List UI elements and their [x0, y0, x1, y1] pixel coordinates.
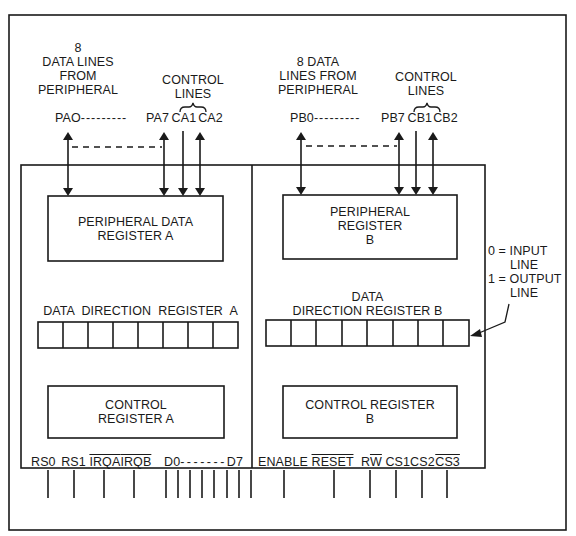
label-line: CONTROL REGISTER — [283, 398, 457, 412]
label-line: CONTROL — [391, 70, 461, 84]
label-line: LINES FROM — [270, 69, 366, 83]
label-line: FROM — [30, 69, 126, 83]
pin-pa7: PA7 — [146, 111, 169, 125]
pr-b-label: PERIPHERAL REGISTER B — [283, 205, 457, 247]
label-line: LINES — [158, 87, 228, 101]
pin-dash: ------- — [180, 455, 227, 469]
port-a-data-lines-label: 8 DATA LINES FROM PERIPHERAL — [30, 41, 126, 97]
label-line: REGISTER A — [48, 229, 223, 243]
legend-line: LINE — [488, 286, 562, 300]
pin-pb0: PB0 — [290, 111, 314, 125]
pin-d0: D0 — [164, 455, 180, 469]
label-line: PERIPHERAL — [283, 205, 457, 219]
pin-cs3: CS3 — [435, 455, 460, 469]
pin-pa0: PAO — [55, 111, 81, 125]
port-a-pin-row: PAO--------- — [55, 111, 127, 125]
port-b-pin-row-right: PB7 CB1CB2 — [381, 111, 458, 125]
label-line: DIRECTION REGISTER B — [266, 304, 469, 318]
pin-w-bar: W — [370, 455, 382, 469]
pin-reset: RESET — [312, 455, 354, 469]
ddr-a-label: DATA DIRECTION REGISTER A — [38, 304, 243, 318]
pin-rw: RW — [361, 455, 382, 469]
pin-irqa: IRQA — [89, 455, 120, 469]
port-a-pin-row-right: PA7 CA1CA2 — [146, 111, 223, 125]
label-line: PERIPHERAL — [270, 83, 366, 97]
io-legend: 0 = INPUT LINE 1 = OUTPUT LINE — [488, 244, 562, 300]
legend-line: 0 = INPUT — [488, 244, 562, 258]
label-line: REGISTER A — [48, 412, 224, 426]
label-line: B — [283, 233, 457, 247]
port-b-control-lines-label: CONTROL LINES — [391, 70, 461, 98]
pin-dash: --------- — [81, 111, 127, 125]
legend-line: 1 = OUTPUT — [488, 272, 562, 286]
label-line: CONTROL — [158, 73, 228, 87]
pin-pb7: PB7 — [381, 111, 405, 125]
port-a-control-lines-label: CONTROL LINES — [158, 73, 228, 101]
ddr-b-cells — [266, 320, 469, 346]
label-line: CONTROL — [48, 398, 224, 412]
label-line: PERIPHERAL DATA — [48, 215, 223, 229]
pin-ca1: CA1 — [172, 111, 197, 125]
pin-ca2: CA2 — [198, 111, 223, 125]
label-line: 8 — [30, 41, 126, 55]
cr-a-label: CONTROL REGISTER A — [48, 398, 224, 426]
pin-cb1: CB1 — [408, 111, 433, 125]
bottom-pins-a: RS0 RS1 IRQAIRQB — [31, 455, 151, 469]
bottom-pins-b: ENABLE RESET RW CS1CS2 CS3 — [258, 455, 460, 469]
pin-dash: --------- — [314, 111, 360, 125]
label-line: DATA — [266, 290, 469, 304]
port-b-data-lines-label: 8 DATA LINES FROM PERIPHERAL — [270, 55, 366, 97]
label-line: REGISTER — [283, 219, 457, 233]
label-line: PERIPHERAL — [30, 83, 126, 97]
cr-b-label: CONTROL REGISTER B — [283, 398, 457, 426]
pin-rs1: RS1 — [61, 455, 86, 469]
bottom-pins-d: D0-------D7 — [164, 455, 243, 469]
pin-cb2: CB2 — [433, 111, 458, 125]
legend-line: LINE — [488, 258, 562, 272]
ddr-b-label: DATA DIRECTION REGISTER B — [266, 290, 469, 318]
label-line: B — [283, 412, 457, 426]
pin-cs2: CS2 — [410, 455, 435, 469]
port-b-pin-row: PB0--------- — [290, 111, 360, 125]
pin-cs1: CS1 — [385, 455, 410, 469]
pin-d7: D7 — [227, 455, 243, 469]
label-line: LINES — [391, 84, 461, 98]
pin-irqb: IRQB — [120, 455, 151, 469]
label-line: 8 DATA — [270, 55, 366, 69]
pin-enable: ENABLE — [258, 455, 308, 469]
bottom-pin-lines — [48, 470, 447, 498]
legend-pointer — [479, 304, 509, 333]
label-line: DATA LINES — [30, 55, 126, 69]
pdr-a-label: PERIPHERAL DATA REGISTER A — [48, 215, 223, 243]
ddr-a-cells — [38, 322, 238, 348]
pin-r: R — [361, 455, 370, 469]
pin-rs0: RS0 — [31, 455, 56, 469]
